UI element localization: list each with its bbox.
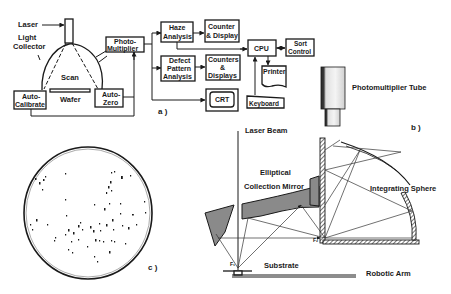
counters-displays-label-1: Counters [208,56,239,63]
panel-a-label: a ) [158,107,168,116]
panel-b-label: b ) [411,123,421,132]
panel-c-label: c ) [148,263,158,272]
substrate-label: Substrate [264,261,299,270]
light-collector-label-2: Collector [13,42,46,51]
panel-b-optics: Photomultiplier Tube b ) Integrating Sph… [205,67,436,278]
robotic-arm-label: Robotic Arm [366,269,411,278]
figure-canvas: Laser Light Collector Scan Wafer Auto- C… [0,0,451,294]
photomultiplier-tube-body [321,67,345,109]
scan-beam-right [72,43,98,89]
crt-label: CRT [215,96,230,103]
photomultiplier-label-1: Photo- [114,38,137,45]
counter-display-label-2: & Display [206,32,238,40]
laser-beam-label: Laser Beam [245,126,288,135]
wafer-label: Wafer [60,95,81,104]
defect-label-3: Analysis [163,73,192,81]
sphere-arc-lower [401,192,416,240]
keyboard-label: Keyboard [249,100,279,108]
elliptical-label: Elliptical [260,168,291,177]
wafer-plate [50,89,90,92]
mirror-mount [310,176,319,206]
collector-dome-top-right [69,44,97,60]
auto-zero-label-1: Auto- [102,91,121,98]
counters-displays-label-2: & [220,64,225,71]
sort-control-label-2: Control [288,48,311,55]
cpu-label: CPU [254,45,269,52]
scan-label: Scan [61,73,79,82]
laser-tube [65,19,73,43]
sphere-vertical-wall [320,138,325,243]
printer-label: Printer [263,68,286,75]
wafer-outline [24,147,152,279]
collector-dome-right [97,60,102,89]
integrating-sphere-label: Integrating Sphere [370,184,436,193]
photomultiplier-label-2: Multiplier [107,45,138,53]
photomultiplier-tube-neck [325,109,340,126]
panel-c-wafer-map: c ) [24,147,158,279]
auto-calibrate-label-1: Auto- [22,93,41,100]
haze-label-2: Analysis [163,33,192,41]
counter-display-label-1: Counter [208,23,235,30]
auto-zero-label-2: Zero [103,99,118,106]
defect-label-2: Pattern [167,65,191,72]
collector-dome-left [42,44,69,90]
focus-f1-label: F₁ [230,261,235,267]
photomultiplier-tube-label: Photomultiplier Tube [352,83,426,92]
laser-label: Laser [18,20,38,29]
defect-label-1: Defect [169,57,191,64]
collection-mirror-label: Collection Mirror [244,182,304,191]
light-collector-label-1: Light [18,33,37,42]
haze-label-1: Haze [169,24,185,31]
collector-to-pm-2 [99,56,107,62]
panel-a-block-diagram: Laser Light Collector Scan Wafer Auto- C… [13,19,314,116]
focus-f2-label: F₂ [313,237,318,243]
scan-beam-left [44,43,66,89]
auto-calibrate-label-2: Calibrate [15,101,45,108]
counters-displays-label-3: Displays [208,72,237,80]
collector-leader [38,55,40,60]
haze-to-cpu-line [177,42,247,49]
sphere-bottom-wall [323,240,419,244]
sort-control-label-1: Sort [294,40,308,47]
collector-to-pm-1 [96,51,106,57]
substrate-chuck [234,271,242,275]
